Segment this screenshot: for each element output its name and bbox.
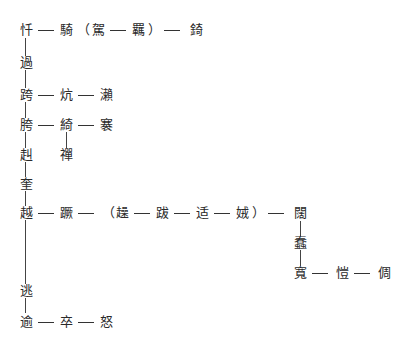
- node-char: 過: [18, 56, 34, 70]
- connector-dash: [164, 30, 180, 31]
- connector-dash: [78, 213, 94, 214]
- node-char: 褰: [98, 118, 114, 132]
- node-char: 娀: [234, 206, 250, 220]
- connector-dash: [174, 213, 190, 214]
- node-char: 怒: [98, 315, 114, 329]
- connector-dash: [134, 213, 150, 214]
- connector-dash: [38, 30, 54, 31]
- connector-dash: [78, 322, 94, 323]
- connector-dash: [268, 213, 284, 214]
- node-char: 蠢: [292, 236, 308, 250]
- node-char: 适: [194, 206, 210, 220]
- node-char: 倜: [376, 266, 392, 280]
- connector-dash: [38, 322, 54, 323]
- node-char: 跋: [154, 206, 170, 220]
- connector-dash: [110, 30, 126, 31]
- node-char: 越: [18, 206, 34, 220]
- node-char: 赳: [18, 148, 34, 162]
- node-char: 錡: [188, 23, 204, 37]
- node-char: 忏: [18, 23, 34, 37]
- node-char: 炕: [58, 88, 74, 102]
- node-char: 逾: [18, 315, 34, 329]
- connector-dash: [214, 213, 230, 214]
- node-char: 瀨: [98, 88, 114, 102]
- node-char: 禪: [58, 148, 74, 162]
- connector-dash: [38, 95, 54, 96]
- connector-dash: [78, 125, 94, 126]
- node-char: 寬: [292, 266, 308, 280]
- node-char: 奎: [18, 177, 34, 191]
- node-char: 愷: [334, 266, 350, 280]
- node-char: 逃: [18, 284, 34, 298]
- node-char: 騎: [58, 23, 74, 37]
- open-paren: （: [77, 23, 90, 37]
- connector-dash: [78, 95, 94, 96]
- branch-line-綺-禪: [66, 132, 67, 148]
- connector-dash: [354, 273, 370, 274]
- node-char: 胯: [18, 118, 34, 132]
- close-paren: ）: [148, 23, 161, 37]
- node-char: 蹶: [58, 206, 74, 220]
- node-char: 卒: [58, 315, 74, 329]
- node-char: 跨: [18, 88, 34, 102]
- connector-dash: [38, 125, 54, 126]
- open-paren: （: [102, 206, 115, 220]
- node-char: 綺: [58, 118, 74, 132]
- node-char: 駕: [90, 23, 106, 37]
- node-char: 趮: [114, 206, 130, 220]
- node-char: 羈: [130, 23, 146, 37]
- connector-dash: [38, 213, 54, 214]
- close-paren: ）: [252, 206, 265, 220]
- connector-dash: [312, 273, 328, 274]
- node-char: 闊: [292, 206, 308, 220]
